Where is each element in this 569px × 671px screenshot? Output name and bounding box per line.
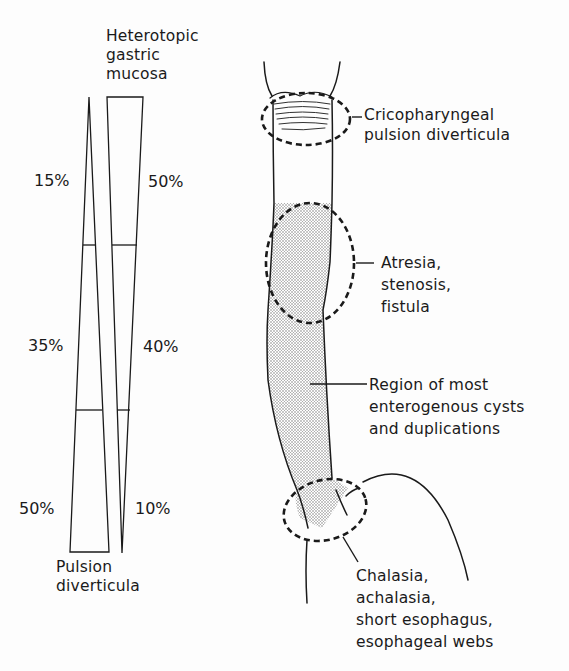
leader-chalasia <box>343 537 358 562</box>
cricopharyngeal-label: Cricopharyngeal pulsion diverticula <box>364 105 510 145</box>
pulsion-pct-lower: 50% <box>19 500 55 518</box>
enterogenous-cysts-label: Region of most enterogenous cysts and du… <box>369 374 525 440</box>
pulsion-pct-middle: 35% <box>28 337 64 355</box>
pulsion-pct-upper: 15% <box>34 172 70 190</box>
mucosa-pct-middle: 40% <box>143 338 179 356</box>
chalasia-label: Chalasia, achalasia, short esophagus, es… <box>356 565 494 653</box>
pulsion-diverticula-wedge <box>70 97 109 552</box>
mucosa-pct-lower: 10% <box>135 500 171 518</box>
cricopharyngeal-circle <box>262 93 350 145</box>
atresia-label: Atresia, stenosis, fistula <box>381 252 451 318</box>
heterotopic-mucosa-wedge <box>107 97 143 553</box>
pulsion-diverticula-label: Pulsion diverticula <box>56 558 140 596</box>
heterotopic-mucosa-label: Heterotopic gastric mucosa <box>106 27 199 84</box>
mucosa-pct-upper: 50% <box>148 173 184 191</box>
